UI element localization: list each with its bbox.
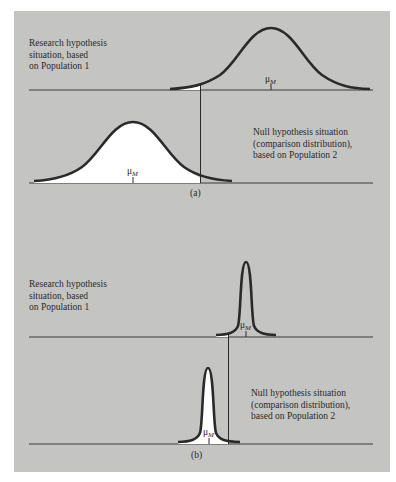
research-mean-label-b: μM (240, 320, 252, 332)
label-line: Null hypothesis situation (251, 388, 350, 400)
label-line: (comparison distribution), (251, 400, 350, 412)
label-line: situation, based (29, 50, 107, 62)
null-label-b: Null hypothesis situation (comparison di… (251, 388, 350, 423)
label-line: based on Population 2 (251, 411, 350, 423)
label-line: based on Population 2 (253, 150, 352, 162)
research-mean-label-a: μM (265, 74, 277, 86)
label-line: (comparison distribution), (253, 139, 352, 151)
label-line: on Population 1 (29, 302, 107, 314)
label-line: Research hypothesis (29, 38, 107, 50)
label-line: Null hypothesis situation (253, 127, 352, 139)
null-fill-a (34, 122, 200, 183)
research-label-b: Research hypothesis situation, based on … (29, 279, 107, 314)
label-line: situation, based (29, 291, 107, 303)
label-line: on Population 1 (29, 61, 107, 73)
caption-b: (b) (191, 450, 202, 460)
research-label-a: Research hypothesis situation, based on … (29, 38, 107, 73)
caption-a: (a) (190, 188, 201, 198)
label-line: Research hypothesis (29, 279, 107, 291)
null-label-a: Null hypothesis situation (comparison di… (253, 127, 352, 162)
